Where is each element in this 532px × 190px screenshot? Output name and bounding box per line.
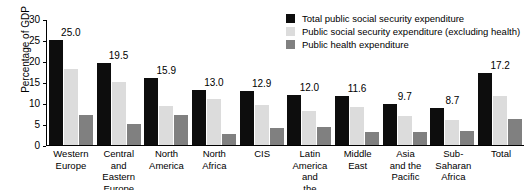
bar-health	[508, 119, 522, 145]
excluding-health-swatch-icon	[286, 27, 295, 36]
bar-group: 15.9	[142, 20, 190, 145]
bar-value-label: 19.5	[95, 51, 143, 61]
bar-value-label: 15.9	[142, 66, 190, 76]
y-tick-mark-10	[43, 104, 46, 105]
x-axis-category-label: North America	[143, 148, 191, 190]
bar-health	[127, 124, 141, 145]
bar-total	[49, 40, 63, 145]
bar-total	[287, 95, 301, 145]
bar-excl	[64, 69, 78, 145]
bar-total	[430, 108, 444, 145]
legend-item-excluding-health: Public social security expenditure (excl…	[286, 25, 520, 38]
bar-excl	[112, 82, 126, 145]
bar-health	[413, 132, 427, 145]
bar-value-label: 12.9	[238, 79, 286, 89]
y-tick-mark-5	[43, 125, 46, 126]
bar-excl	[159, 106, 173, 145]
bar-excl	[255, 105, 269, 145]
bar-chart: Percentage of GDP 30 25 20 15 10 5 0 25.…	[0, 0, 532, 190]
legend-label-health: Public health expenditure	[302, 39, 409, 50]
x-axis-category-label: Latin America and the Caribbean	[286, 148, 334, 190]
legend-label-excluding-health: Public social security expenditure (excl…	[302, 26, 520, 37]
y-tick-mark-25	[43, 41, 46, 42]
x-axis-line	[46, 145, 524, 146]
bar-value-label: 11.6	[333, 84, 381, 94]
bar-health	[460, 131, 474, 145]
y-tick-10: 10	[16, 99, 40, 109]
health-swatch-icon	[286, 40, 295, 49]
x-axis-category-label: Total	[477, 148, 525, 190]
bar-health	[270, 128, 284, 145]
total-swatch-icon	[286, 14, 295, 23]
bar-group: 25.0	[47, 20, 95, 145]
bar-value-label: 13.0	[190, 78, 238, 88]
bar-excl	[350, 107, 364, 145]
bar-value-label: 12.0	[286, 83, 334, 93]
y-tick-15: 15	[16, 78, 40, 88]
bar-total	[383, 104, 397, 145]
y-tick-30: 30	[16, 15, 40, 25]
bar-total	[478, 73, 492, 145]
bar-excl	[445, 120, 459, 145]
bar-total	[97, 63, 111, 145]
y-tick-5: 5	[16, 120, 40, 130]
y-tick-mark-15	[43, 83, 46, 84]
x-axis-category-label: Asia and the Pacific	[382, 148, 430, 190]
bar-total	[335, 96, 349, 145]
x-axis-category-label: CIS	[238, 148, 286, 190]
bar-value-label: 25.0	[47, 28, 95, 38]
x-axis-category-label: North Africa	[190, 148, 238, 190]
bar-excl	[398, 116, 412, 145]
bar-value-label: 17.2	[476, 61, 524, 71]
y-tick-0: 0	[16, 141, 40, 151]
bar-total	[144, 78, 158, 145]
bar-excl	[207, 99, 221, 145]
bar-excl	[493, 96, 507, 145]
bar-group: 19.5	[95, 20, 143, 145]
y-tick-25: 25	[16, 36, 40, 46]
bar-health	[317, 127, 331, 145]
legend-item-total: Total public social security expenditure	[286, 12, 520, 25]
bar-health	[222, 134, 236, 145]
bar-group: 12.9	[238, 20, 286, 145]
bar-health	[365, 132, 379, 145]
bar-total	[192, 90, 206, 145]
legend-item-health: Public health expenditure	[286, 38, 520, 51]
legend-label-total: Total public social security expenditure	[302, 13, 464, 24]
bar-excl	[302, 111, 316, 145]
x-axis-category-label: Sub- Saharan Africa	[429, 148, 477, 190]
x-axis-category-label: Western Europe	[47, 148, 95, 190]
bar-group: 13.0	[190, 20, 238, 145]
y-tick-mark-0	[43, 146, 46, 147]
y-tick-mark-30	[43, 20, 46, 21]
legend: Total public social security expenditure…	[286, 12, 520, 51]
x-axis-category-labels: Western EuropeCentral and Eastern Europe…	[47, 148, 525, 190]
y-tick-mark-20	[43, 62, 46, 63]
bar-value-label: 8.7	[429, 96, 477, 106]
bar-health	[174, 115, 188, 145]
bar-value-label: 9.7	[381, 92, 429, 102]
x-axis-category-label: Middle East	[334, 148, 382, 190]
x-axis-category-label: Central and Eastern Europe	[95, 148, 143, 190]
bar-total	[240, 91, 254, 145]
bar-health	[79, 115, 93, 145]
y-tick-20: 20	[16, 57, 40, 67]
